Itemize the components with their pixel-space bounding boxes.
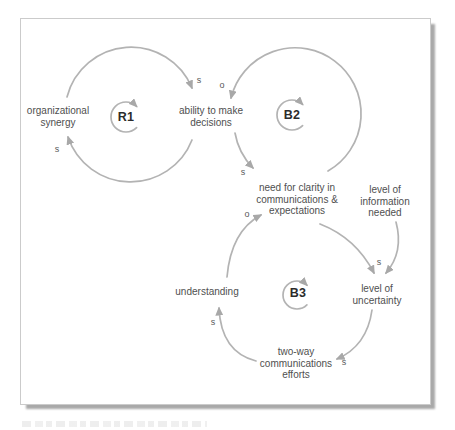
loop-label-r1: R1 (118, 110, 135, 124)
polarity-ability-clarity: s (241, 167, 246, 177)
arrow-twoway-to-understanding (219, 308, 256, 361)
polarity-understanding-clarity: o (244, 209, 249, 219)
polarity-twoway-understanding: s (211, 317, 216, 327)
arrow-synergy-to-ability (67, 47, 192, 97)
node-understanding: understanding (175, 286, 238, 298)
node-level-of-uncertainty: level of uncertainty (353, 283, 402, 306)
node-ability-to-make-decisions: ability to make decisions (179, 105, 243, 128)
clipped-caption-remnant (22, 421, 207, 427)
polarity-uncertainty-twoway: s (342, 357, 347, 367)
polarity-clarity-uncertainty: s (377, 257, 382, 267)
node-two-way-communications-efforts: two-way communications efforts (260, 346, 332, 381)
polarity-clarity-ability: o (219, 80, 224, 90)
arrow-ability-to-synergy (68, 137, 192, 182)
node-need-for-clarity: need for clarity in communications & exp… (256, 182, 338, 217)
arrow-information-to-uncertainty (386, 222, 398, 273)
polarity-synergy-ability: s (197, 75, 202, 85)
arrow-clarity-to-uncertainty (320, 224, 374, 273)
loop-label-b3: B3 (290, 286, 307, 300)
polarity-ability-synergy: s (55, 144, 60, 154)
node-organizational-synergy: organizational synergy (27, 105, 89, 128)
arrow-ability-to-clarity (235, 133, 253, 168)
arrow-understanding-to-clarity (227, 215, 261, 277)
arrow-uncertainty-to-twoway (337, 310, 372, 359)
node-level-of-information-needed: level of information needed (360, 184, 409, 219)
loop-label-b2: B2 (284, 108, 301, 122)
